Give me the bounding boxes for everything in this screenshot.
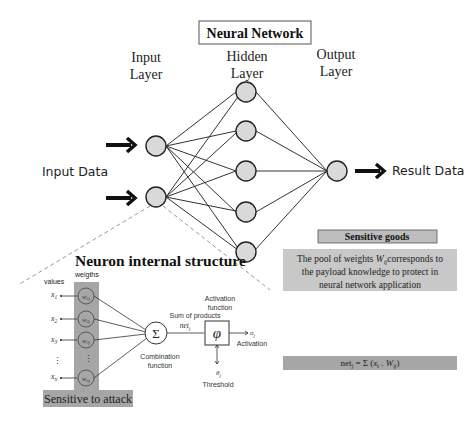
input-hidden-edges bbox=[166, 92, 240, 250]
hidden-node bbox=[236, 202, 256, 222]
formula-text: netj = Σ (xi . Wij) bbox=[341, 358, 400, 369]
threshold-label: Threshold bbox=[202, 381, 233, 388]
output-symbol: oj bbox=[250, 329, 256, 338]
net-label: netj bbox=[180, 321, 191, 331]
values-label: values bbox=[44, 278, 65, 285]
combination-label-2: function bbox=[148, 362, 173, 369]
sum-of-products-label: Sum of products bbox=[170, 312, 221, 320]
hidden-layer-label-2: Layer bbox=[231, 66, 264, 81]
sensitive-goods-line-2: the payload knowledge to protect in bbox=[302, 267, 439, 277]
input-arrow-icon bbox=[106, 138, 135, 152]
sensitive-goods-line-3: neural network application bbox=[319, 280, 421, 290]
activation-function-label-1: Activation bbox=[205, 295, 235, 302]
svg-text:⋮: ⋮ bbox=[84, 354, 93, 364]
hidden-output-edges bbox=[255, 92, 327, 250]
input-data-label: Input Data bbox=[42, 164, 108, 179]
threshold-symbol: θj bbox=[216, 369, 221, 378]
sigma-icon: Σ bbox=[152, 326, 160, 341]
output-node bbox=[327, 161, 347, 181]
hidden-nodes bbox=[236, 82, 256, 262]
diagram-title: Neural Network bbox=[207, 26, 304, 41]
sensitive-to-attack-label: Sensitive to attack bbox=[44, 392, 132, 406]
svg-text:x2: x2 bbox=[50, 314, 58, 324]
weights-label: weigths bbox=[74, 271, 99, 279]
input-node bbox=[146, 187, 166, 207]
output-arrow-icon bbox=[355, 164, 384, 178]
svg-text:x1: x1 bbox=[50, 290, 58, 300]
output-layer-label-1: Output bbox=[317, 47, 356, 62]
weight-sum-edges bbox=[94, 296, 147, 378]
phi-icon: φ bbox=[213, 325, 221, 341]
title-box: Neural Network bbox=[199, 21, 311, 44]
hidden-layer-label-1: Hidden bbox=[226, 49, 267, 64]
input-values: x1 x2 x3 ⋮ xn bbox=[50, 290, 77, 382]
hidden-node bbox=[236, 121, 256, 141]
svg-text:x3: x3 bbox=[50, 335, 58, 345]
input-arrow-icon bbox=[106, 191, 135, 205]
input-layer-label-2: Layer bbox=[130, 67, 163, 82]
input-nodes bbox=[146, 136, 166, 207]
sensitive-goods-title: Sensitive goods bbox=[345, 231, 410, 242]
layer-labels: Input Layer Hidden Layer Output Layer bbox=[130, 47, 356, 82]
activation-label: Activation bbox=[237, 340, 267, 347]
svg-text:xn: xn bbox=[50, 372, 58, 382]
result-data-label: Result Data bbox=[392, 163, 464, 178]
combination-label-1: Combination bbox=[140, 353, 179, 360]
neural-network-diagram: Neural Network Input Layer Hidden Layer … bbox=[0, 0, 476, 424]
input-node bbox=[146, 136, 166, 156]
hidden-node bbox=[236, 82, 256, 102]
svg-text:⋮: ⋮ bbox=[53, 356, 62, 366]
output-layer-label-2: Layer bbox=[320, 64, 353, 79]
hidden-node bbox=[236, 161, 256, 181]
activation-function-label-2: function bbox=[208, 304, 233, 311]
sensitive-goods-line-1: The pool of weights Wijcorresponds to bbox=[297, 254, 443, 265]
neuron-structure-title: Neuron internal structure bbox=[75, 252, 246, 269]
input-layer-label-1: Input bbox=[131, 50, 161, 65]
